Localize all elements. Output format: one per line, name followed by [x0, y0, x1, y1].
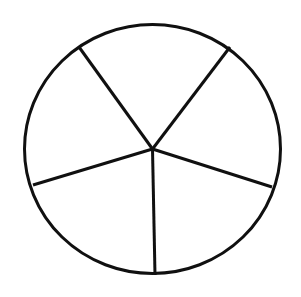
figure-canvas: Circle divided into five sectors — [0, 0, 301, 297]
sector-diagram-svg — [0, 0, 301, 297]
